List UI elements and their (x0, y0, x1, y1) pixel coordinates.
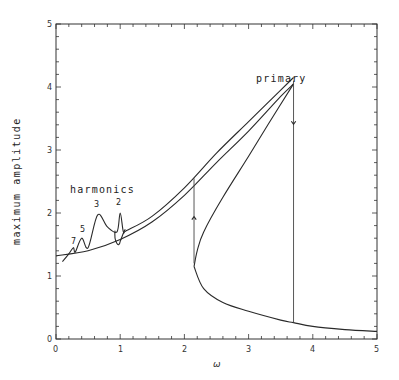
x-tick-3: 3 (246, 345, 251, 354)
x-tick-5: 5 (374, 345, 379, 354)
y-tick-3: 3 (47, 146, 52, 155)
chart: 0 1 2 3 4 5 0 1 2 3 4 5 maximum amplitud… (0, 0, 399, 380)
plot-frame (56, 24, 377, 339)
x-tick-1: 1 (118, 345, 123, 354)
x-tick-labels: 0 1 2 3 4 5 (53, 345, 379, 354)
y-tick-1: 1 (47, 272, 52, 281)
x-tick-0: 0 (53, 345, 58, 354)
curves (56, 78, 377, 332)
annotation-harmonic-2: 2 (116, 198, 121, 207)
y-tick-4: 4 (47, 83, 52, 92)
curve-series-2 (194, 84, 294, 267)
annotation-harmonic-7: 7 (71, 237, 76, 246)
annotation-primary: primary (256, 73, 307, 84)
y-tick-2: 2 (47, 209, 52, 218)
x-tick-2: 2 (182, 345, 187, 354)
axis-ticks (56, 24, 377, 339)
annotation-harmonic-5: 5 (80, 225, 85, 234)
x-axis-title: ω (213, 359, 221, 369)
y-tick-5: 5 (47, 20, 52, 29)
y-tick-labels: 0 1 2 3 4 5 (47, 20, 52, 344)
curve-series-3 (194, 267, 377, 332)
curve-series-0 (56, 84, 294, 256)
annotation-harmonics: harmonics (70, 184, 135, 195)
y-tick-0: 0 (47, 335, 52, 344)
annotation-harmonic-3: 3 (94, 200, 99, 209)
curve-series-1 (62, 78, 293, 262)
y-axis-title: maximum amplitude (11, 117, 22, 245)
x-tick-4: 4 (310, 345, 315, 354)
